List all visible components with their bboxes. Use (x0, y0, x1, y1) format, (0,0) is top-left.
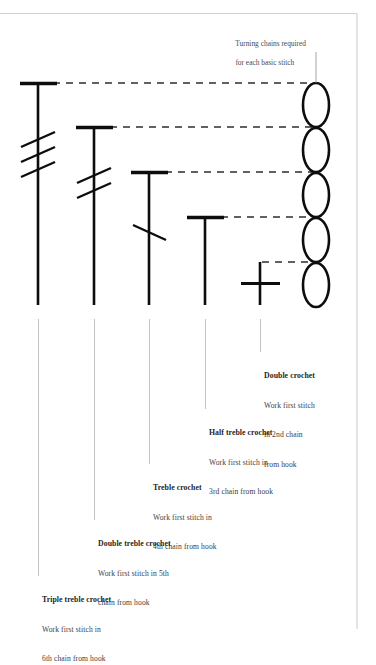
label-double-crochet-title: Double crochet (264, 371, 315, 381)
chain-stitch-stack (303, 83, 329, 307)
label-half-treble-crochet-line-2: 3rd chain from hook (209, 487, 273, 497)
chain-stitch-5 (303, 263, 329, 307)
label-triple-treble-crochet-line-1: Work first stitch in (42, 625, 111, 635)
stitch-symbol-double-treble-crochet (76, 127, 113, 305)
chain-stitch-4 (303, 218, 329, 262)
stitch-symbol-triple-treble-crochet (20, 83, 57, 305)
label-treble-crochet-title: Treble crochet (153, 483, 217, 493)
label-half-treble-crochet-line-1: Work first stitch in (209, 458, 273, 468)
label-half-treble-crochet: Half treble crochet Work first stitch in… (209, 408, 273, 517)
caption-line-2: for each basic stitch (235, 58, 294, 67)
label-half-treble-crochet-title: Half treble crochet (209, 428, 273, 438)
stitch-symbol-double-crochet (241, 262, 280, 305)
label-triple-treble-crochet-line-2: 6th chain from hook (42, 654, 111, 664)
chain-stitch-1 (303, 83, 329, 127)
stitch-symbol-half-treble-crochet (187, 217, 224, 305)
label-double-treble-crochet-title: Double treble crochet (98, 539, 171, 549)
label-triple-treble-crochet-title: Triple treble crochet (42, 595, 111, 605)
diagram-caption: Turning chains required for each basic s… (228, 29, 348, 77)
stitch-symbol-treble-crochet (131, 172, 168, 305)
chain-stitch-2 (303, 128, 329, 172)
level-connectors (40, 83, 316, 262)
label-triple-treble-crochet: Triple treble crochet Work first stitch … (42, 575, 111, 665)
chain-stitch-3 (303, 173, 329, 217)
caption-line-1: Turning chains required (235, 39, 306, 48)
